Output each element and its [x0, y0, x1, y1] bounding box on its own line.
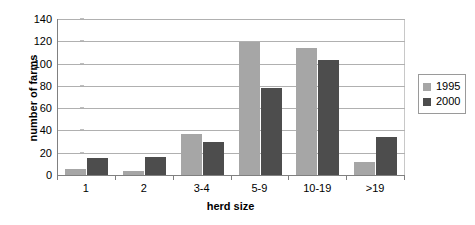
bar-1995-2: [123, 171, 144, 175]
bar-group: [289, 19, 347, 175]
x-axis-tick-mark: [173, 176, 174, 180]
y-axis-tick-label: 120: [24, 36, 52, 47]
legend-item: 2000: [423, 94, 460, 109]
y-axis-tick-label: 40: [24, 125, 52, 136]
legend-swatch-2000: [423, 98, 431, 106]
bar-chart: number of farms 020406080100120140 123-4…: [0, 0, 475, 225]
y-axis-tick-label: 80: [24, 80, 52, 91]
bar-group: [58, 19, 116, 175]
x-axis-tick-mark: [288, 176, 289, 180]
bar-2000-10-19: [318, 60, 339, 175]
x-axis-tick-mark: [57, 176, 58, 180]
bar-1995-5-9: [239, 42, 260, 175]
bar-group: [347, 19, 405, 175]
bar-2000-2: [145, 157, 166, 175]
x-axis-tick-mark: [346, 176, 347, 180]
bars-layer: [58, 19, 405, 175]
legend-label: 2000: [436, 96, 460, 107]
plot-area: [57, 19, 405, 176]
y-axis-tick-label: 100: [24, 58, 52, 69]
x-axis-tick-label: >19: [340, 182, 410, 194]
x-axis-tick-mark: [404, 176, 405, 180]
x-axis-title: herd size: [57, 200, 404, 212]
legend-swatch-1995: [423, 83, 431, 91]
bar-group: [174, 19, 232, 175]
bar-1995-10-19: [296, 48, 317, 175]
y-axis-tick-labels: 020406080100120140: [24, 13, 52, 175]
x-axis-tick-mark: [115, 176, 116, 180]
bar-2000-5-9: [261, 88, 282, 175]
bar-1995->19: [354, 162, 375, 175]
bar-2000-3-4: [203, 142, 224, 175]
bar-1995-3-4: [181, 134, 202, 175]
y-axis-tick-label: 20: [24, 147, 52, 158]
bar-group: [116, 19, 174, 175]
legend: 19952000: [418, 74, 466, 114]
bar-group: [232, 19, 290, 175]
legend-label: 1995: [436, 81, 460, 92]
y-axis-tick-label: 0: [24, 170, 52, 181]
y-axis-tick-label: 60: [24, 103, 52, 114]
legend-item: 1995: [423, 79, 460, 94]
bar-2000->19: [376, 137, 397, 175]
bar-1995-1: [65, 169, 86, 175]
y-axis-tick-label: 140: [24, 14, 52, 25]
bar-2000-1: [87, 158, 108, 175]
x-axis-tick-labels: 123-45-910-19>19: [57, 176, 404, 200]
x-axis-tick-mark: [231, 176, 232, 180]
